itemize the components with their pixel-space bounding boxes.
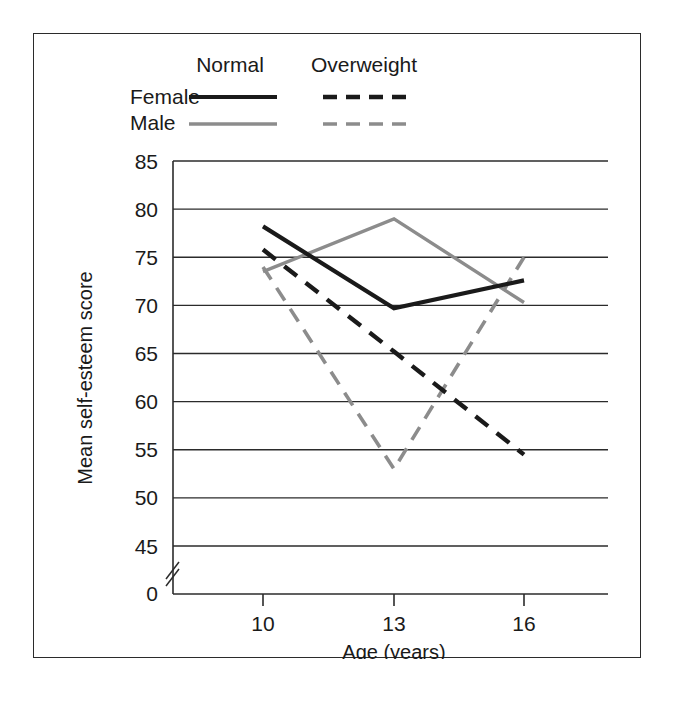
legend-column-overweight-label: Overweight [311, 53, 417, 76]
y-axis-title: Mean self-esteem score [74, 271, 96, 484]
x-tick-labels: 10 13 16 [251, 612, 535, 635]
series-line-female-overweight [263, 250, 524, 455]
x-tick-label-16: 16 [512, 612, 535, 635]
x-tick-label-10: 10 [251, 612, 274, 635]
x-tick-label-13: 13 [382, 612, 405, 635]
figure-panel: Normal Overweight Female Male [33, 33, 641, 658]
series-line-female-normal [263, 226, 524, 308]
legend-row-male-label: Male [130, 111, 176, 134]
legend-column-normal-label: Normal [196, 53, 264, 76]
y-tick-label-65: 65 [135, 342, 158, 365]
y-tick-label-70: 70 [135, 294, 158, 317]
y-tick-label-0: 0 [146, 582, 158, 605]
y-tick-labels: 85 80 75 70 65 60 55 50 45 0 [135, 150, 158, 606]
y-tick-label-55: 55 [135, 438, 158, 461]
y-tick-label-60: 60 [135, 390, 158, 413]
x-axis-title: Age (years) [342, 641, 445, 659]
chart-legend: Normal Overweight Female Male [130, 53, 417, 134]
y-tick-label-80: 80 [135, 198, 158, 221]
y-tick-label-50: 50 [135, 486, 158, 509]
y-tick-label-75: 75 [135, 246, 158, 269]
y-tick-label-85: 85 [135, 150, 158, 173]
y-tick-label-45: 45 [135, 535, 158, 558]
x-tick-marks [263, 594, 524, 606]
line-chart: Normal Overweight Female Male [34, 34, 642, 659]
